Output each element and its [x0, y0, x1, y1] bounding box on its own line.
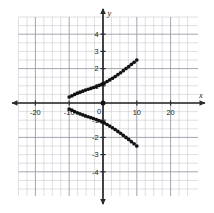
x-tick-label: 20 [166, 108, 174, 117]
axes [12, 8, 206, 205]
y-tick-label: 2 [94, 64, 98, 73]
grid-minor-lines [19, 17, 199, 196]
coordinate-plane: -20-101020-4-3-2-112340 xy [0, 0, 214, 213]
x-tick-label: -20 [30, 108, 41, 117]
data-point [101, 101, 106, 106]
graph-screenshot: -20-101020-4-3-2-112340 xy [0, 0, 214, 213]
y-tick-label: 3 [94, 47, 98, 56]
y-axis-name: y [107, 8, 112, 18]
data-point [135, 144, 139, 148]
x-axis-name: x [198, 90, 203, 100]
y-tick-label: -3 [92, 150, 99, 159]
coordinate-plane-svg: -20-101020-4-3-2-112340 xy [0, 0, 214, 213]
y-tick-label: 4 [94, 30, 98, 39]
axis-name-labels: xy [107, 8, 204, 101]
data-point [135, 58, 139, 62]
y-tick-label: -2 [92, 133, 99, 142]
y-tick-label: -4 [92, 168, 99, 177]
x-tick-label: 10 [133, 108, 141, 117]
grid-major-lines [19, 17, 199, 196]
origin-label: 0 [97, 107, 101, 116]
